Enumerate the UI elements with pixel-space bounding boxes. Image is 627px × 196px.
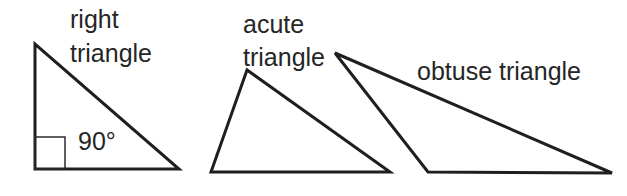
obtuse-triangle-group: obtuse triangle xyxy=(335,53,612,173)
acute-triangle xyxy=(211,70,390,172)
right-angle-marker xyxy=(35,137,65,169)
angle-label-90: 90° xyxy=(78,127,116,155)
right-triangle-group: right triangle 90° xyxy=(35,5,179,169)
triangle-types-diagram: right triangle 90° acute triangle obtuse… xyxy=(0,0,627,196)
acute-triangle-label-line1: acute xyxy=(243,10,304,38)
obtuse-triangle-label: obtuse triangle xyxy=(417,57,581,85)
right-triangle-label-line1: right xyxy=(70,5,119,33)
acute-triangle-label-line2: triangle xyxy=(243,43,325,71)
right-triangle-label-line2: triangle xyxy=(70,39,152,67)
